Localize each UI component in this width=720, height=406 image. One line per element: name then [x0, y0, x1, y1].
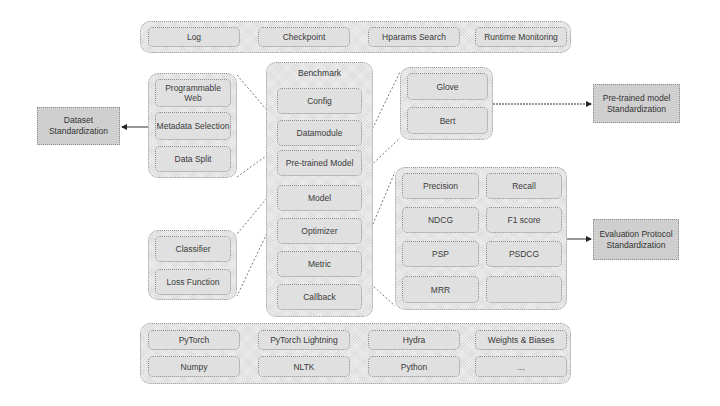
checkpoint-box[interactable]: Checkpoint [258, 27, 350, 47]
metric-box[interactable]: Metric [277, 251, 362, 277]
pytorch-lightning-label: PyTorch Lightning [270, 335, 338, 345]
callback-box[interactable]: Callback [277, 284, 362, 310]
glove-box[interactable]: Glove [407, 73, 488, 100]
ndcg-box[interactable]: NDCG [402, 207, 479, 233]
loss-function-label: Loss Function [167, 277, 220, 287]
psdcg-box[interactable]: PSDCG [486, 241, 562, 267]
nltk-label: NLTK [293, 362, 314, 372]
callback-label: Callback [303, 292, 336, 302]
config-box[interactable]: Config [277, 88, 362, 114]
pretrained-model-box[interactable]: Pre-trained Model [277, 150, 362, 176]
mrr-label: MRR [431, 285, 450, 295]
pretrained-standardization-box[interactable]: Pre-trained model Standardization [593, 84, 680, 123]
data-split-label: Data Split [175, 154, 212, 164]
weights-biases-box[interactable]: Weights & Biases [475, 330, 567, 350]
datamodule-label: Datamodule [297, 128, 343, 138]
bert-label: Bert [440, 116, 456, 126]
loss-function-box[interactable]: Loss Function [155, 269, 231, 295]
precision-box[interactable]: Precision [402, 173, 479, 199]
log-label: Log [187, 32, 201, 42]
precision-label: Precision [423, 181, 458, 191]
empty-metric-box[interactable] [486, 276, 562, 303]
metadata-selection-label: Metadata Selection [157, 121, 230, 131]
metadata-selection-box[interactable]: Metadata Selection [155, 112, 231, 140]
pytorch-box[interactable]: PyTorch [148, 330, 240, 350]
model-box[interactable]: Model [277, 185, 362, 211]
evaluation-standardization-box[interactable]: Evaluation Protocol Standardization [593, 219, 679, 260]
classifier-label: Classifier [176, 244, 211, 254]
glove-label: Glove [436, 82, 458, 92]
checkpoint-label: Checkpoint [283, 32, 326, 42]
pretrained-standardization-label: Pre-trained model Standardization [594, 93, 679, 115]
pytorch-label: PyTorch [179, 335, 210, 345]
runtime-monitoring-label: Runtime Monitoring [484, 32, 558, 42]
ndcg-label: NDCG [428, 215, 453, 225]
python-label: Python [401, 362, 427, 372]
programmable-web-box[interactable]: Programmable Web [155, 79, 231, 107]
hparams-search-label: Hparams Search [382, 32, 446, 42]
psdcg-label: PSDCG [509, 249, 539, 259]
hydra-box[interactable]: Hydra [368, 330, 460, 350]
pretrained-model-label: Pre-trained Model [286, 158, 354, 168]
numpy-label: Numpy [181, 362, 208, 372]
config-label: Config [307, 96, 332, 106]
numpy-box[interactable]: Numpy [148, 356, 240, 377]
programmable-web-label: Programmable Web [156, 83, 230, 103]
benchmark-title: Benchmark [266, 68, 373, 78]
evaluation-standardization-label: Evaluation Protocol Standardization [594, 229, 678, 251]
bert-box[interactable]: Bert [407, 107, 488, 134]
mrr-box[interactable]: MRR [402, 276, 479, 303]
dataset-standardization-label: Dataset Standardization [38, 115, 119, 137]
pytorch-lightning-box[interactable]: PyTorch Lightning [258, 330, 350, 350]
optimizer-label: Optimizer [301, 226, 337, 236]
nltk-box[interactable]: NLTK [258, 356, 350, 377]
more-libraries-label: ... [517, 362, 524, 372]
log-box[interactable]: Log [148, 27, 240, 47]
datamodule-box[interactable]: Datamodule [277, 120, 362, 146]
runtime-monitoring-box[interactable]: Runtime Monitoring [475, 27, 567, 47]
recall-box[interactable]: Recall [486, 173, 562, 199]
model-label: Model [308, 193, 331, 203]
data-split-box[interactable]: Data Split [155, 146, 231, 172]
classifier-box[interactable]: Classifier [155, 236, 231, 262]
recall-label: Recall [512, 181, 536, 191]
f1-score-label: F1 score [507, 215, 540, 225]
psp-label: PSP [432, 249, 449, 259]
optimizer-box[interactable]: Optimizer [277, 218, 362, 244]
weights-biases-label: Weights & Biases [488, 335, 554, 345]
psp-box[interactable]: PSP [402, 241, 479, 267]
dataset-standardization-box[interactable]: Dataset Standardization [37, 107, 120, 145]
more-libraries-box[interactable]: ... [475, 356, 567, 377]
hparams-search-box[interactable]: Hparams Search [368, 27, 460, 47]
hydra-label: Hydra [403, 335, 426, 345]
metric-label: Metric [308, 259, 331, 269]
python-box[interactable]: Python [368, 356, 460, 377]
f1-score-box[interactable]: F1 score [486, 207, 562, 233]
